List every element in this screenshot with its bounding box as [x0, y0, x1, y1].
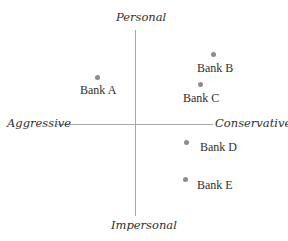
bank-point-label: Bank D — [200, 141, 237, 153]
axis-label-bottom: Impersonal — [111, 220, 177, 232]
bank-point-dot — [183, 177, 188, 182]
bank-point-dot — [211, 52, 216, 57]
axis-label-right: Conservative — [215, 118, 288, 130]
bank-point-dot — [95, 75, 100, 80]
perceptual-map: Personal Impersonal Aggressive Conservat… — [0, 0, 288, 241]
vertical-axis-personal-impersonal — [135, 30, 136, 216]
bank-point-dot — [184, 140, 189, 145]
bank-point-label: Bank C — [183, 92, 219, 104]
bank-point-label: Bank E — [197, 179, 233, 191]
bank-point-label: Bank B — [197, 62, 233, 74]
bank-point-label: Bank A — [80, 84, 116, 96]
axis-label-left: Aggressive — [7, 118, 71, 130]
horizontal-axis-aggressive-conservative — [57, 124, 213, 125]
bank-point-dot — [198, 82, 203, 87]
axis-label-top: Personal — [116, 12, 166, 24]
